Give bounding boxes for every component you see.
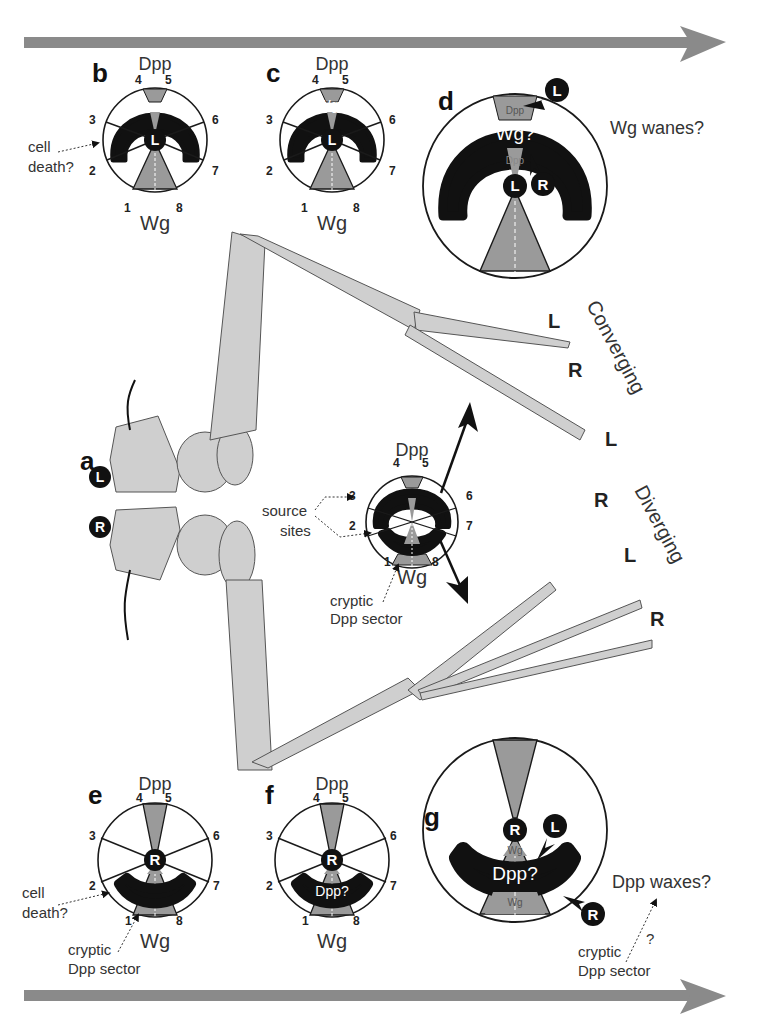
panel-label-f: f — [265, 780, 274, 810]
svg-text:2: 2 — [89, 164, 96, 178]
center-badge: R — [327, 851, 338, 868]
cryptic-pointer — [383, 565, 398, 602]
cryptic-line2: Dpp sector — [330, 610, 403, 627]
svg-text:2: 2 — [349, 519, 356, 533]
svg-text:6: 6 — [466, 489, 473, 503]
bottom-timeline-arrow — [24, 979, 726, 1014]
svg-text:5: 5 — [165, 73, 172, 87]
center-wheel-bottom-label: Wg — [397, 566, 427, 588]
panel-label-d: d — [438, 86, 454, 116]
cell-death-pointer — [58, 143, 98, 152]
svg-text:8: 8 — [353, 201, 360, 215]
figure-canvas: L b Dpp Wg 4 5 3 6 2 7 1 8 cell death? L… — [0, 0, 759, 1029]
inner-dpp-label: Dpp — [506, 155, 525, 166]
cryptic-line2: Dpp sector — [68, 960, 141, 977]
panel-f-wheel: R Dpp? — [275, 803, 389, 917]
svg-text:6: 6 — [389, 113, 396, 127]
cryptic-line1: cryptic — [330, 592, 374, 609]
converging-tip-3: L — [605, 428, 617, 450]
panel-e-wheel: R — [98, 803, 212, 917]
diverging-tip-2: L — [624, 544, 636, 566]
center-badge: L — [510, 177, 519, 194]
outer-dpp-label: Dpp — [506, 105, 525, 116]
cell-death-note-line1: cell — [28, 138, 51, 155]
source-sites-line2: sites — [280, 522, 311, 539]
pointer-badge-top: L — [552, 82, 561, 99]
converging-tip-2: R — [568, 359, 583, 381]
svg-text:8: 8 — [176, 201, 183, 215]
cell-death-note-line2: death? — [28, 158, 74, 175]
top-timeline-arrow — [24, 26, 726, 62]
svg-text:5: 5 — [342, 73, 349, 87]
source-pointer-bottom — [315, 516, 370, 537]
source-pointer-top — [315, 497, 353, 510]
wheel-bottom-label: Wg — [317, 930, 347, 952]
svg-text:4: 4 — [312, 73, 319, 87]
svg-text:6: 6 — [212, 113, 219, 127]
domain-text: Wg? — [495, 123, 534, 144]
wheel-bottom-label: Wg — [140, 930, 170, 952]
svg-text:1: 1 — [301, 201, 308, 215]
svg-text:5: 5 — [165, 791, 172, 805]
svg-text:1: 1 — [125, 914, 132, 928]
center-badge: L — [328, 132, 337, 148]
cell-death-note-line1: cell — [22, 884, 45, 901]
svg-text:3: 3 — [89, 113, 96, 127]
svg-text:7: 7 — [466, 519, 473, 533]
svg-text:1: 1 — [384, 555, 391, 569]
outer-wg-label: Wg — [508, 897, 523, 908]
diverging-tip-1: R — [594, 489, 609, 511]
cryptic-line2: Dpp sector — [578, 962, 651, 979]
svg-text:R: R — [95, 519, 105, 535]
svg-text:8: 8 — [176, 914, 183, 928]
left-badge: L — [89, 466, 111, 488]
svg-text:3: 3 — [266, 829, 273, 843]
cryptic-line1: cryptic — [578, 943, 622, 960]
pointer-badge-outer: R — [588, 906, 599, 923]
converging-label: Converging — [582, 297, 649, 398]
svg-text:L: L — [96, 469, 105, 485]
cryptic-line1: cryptic — [68, 941, 112, 958]
wheel-bottom-label: Wg — [140, 212, 170, 234]
question-mark: ? — [646, 930, 654, 947]
wg-wanes-caption: Wg wanes? — [610, 118, 704, 138]
center-badge: R — [510, 821, 521, 838]
cell-death-note-line2: death? — [22, 904, 68, 921]
svg-text:8: 8 — [353, 914, 360, 928]
panel-c-wheel: L Wg? — [280, 88, 384, 192]
svg-text:4: 4 — [135, 73, 142, 87]
wheel-top-label: Dpp — [138, 54, 171, 74]
dpp-waxes-caption: Dpp waxes? — [612, 872, 711, 892]
domain-text: Dpp? — [315, 883, 349, 899]
center-badge: L — [151, 132, 160, 148]
right-badge: R — [89, 516, 111, 538]
svg-text:4: 4 — [136, 791, 143, 805]
pointer-badge-inner: R — [538, 176, 549, 193]
svg-text:2: 2 — [266, 164, 273, 178]
domain-text: Wg? — [318, 97, 347, 113]
svg-text:2: 2 — [89, 879, 96, 893]
svg-text:3: 3 — [349, 489, 356, 503]
converging-tip-1: L — [548, 310, 560, 332]
pointer-badge-inner: L — [550, 818, 559, 835]
panel-label-e: e — [88, 780, 102, 810]
diverging-label: Diverging — [630, 482, 689, 567]
svg-text:1: 1 — [124, 201, 131, 215]
svg-text:2: 2 — [266, 879, 273, 893]
svg-text:7: 7 — [213, 879, 220, 893]
panel-g-wheel: R Wg Dpp? Wg L R — [423, 738, 607, 926]
svg-text:6: 6 — [390, 829, 397, 843]
svg-text:4: 4 — [393, 456, 400, 470]
wheel-bottom-label: Wg — [317, 212, 347, 234]
svg-text:3: 3 — [89, 829, 96, 843]
svg-text:6: 6 — [213, 829, 220, 843]
svg-text:8: 8 — [432, 555, 439, 569]
panel-b-wheel: L — [103, 88, 207, 192]
svg-text:7: 7 — [389, 164, 396, 178]
domain-text: Dpp? — [492, 863, 537, 884]
svg-text:5: 5 — [342, 791, 349, 805]
center-badge: R — [150, 851, 161, 868]
wheel-top-label: Dpp — [315, 54, 348, 74]
svg-text:3: 3 — [266, 113, 273, 127]
svg-text:1: 1 — [302, 914, 309, 928]
